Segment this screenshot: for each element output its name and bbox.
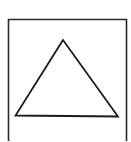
frame-outline xyxy=(9,20,127,142)
diagram-canvas xyxy=(0,0,131,141)
frame-box xyxy=(9,20,127,142)
triangle-outline xyxy=(16,40,119,117)
triangle-shape xyxy=(16,40,119,117)
